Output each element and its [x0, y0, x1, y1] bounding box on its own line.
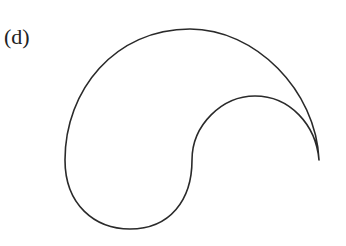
- paisley-curve-diagram: [0, 0, 346, 246]
- outer-curve: [65, 29, 319, 229]
